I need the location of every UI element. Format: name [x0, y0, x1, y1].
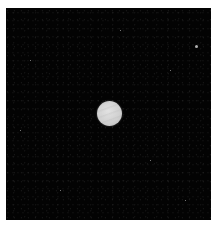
astronomical-image	[6, 8, 211, 220]
planet	[97, 101, 122, 126]
star	[185, 200, 186, 201]
star	[30, 60, 31, 61]
star	[195, 45, 198, 48]
star	[20, 130, 21, 131]
star	[150, 160, 151, 161]
star	[60, 190, 61, 191]
star	[170, 70, 171, 71]
star	[120, 30, 121, 31]
